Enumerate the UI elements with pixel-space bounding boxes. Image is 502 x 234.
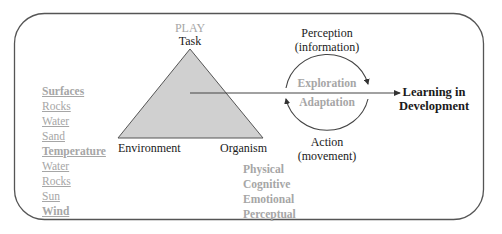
org-item-emotional: Emotional xyxy=(243,192,296,207)
env-item-water-2: Water xyxy=(42,159,106,174)
environment-label: Environment xyxy=(118,142,181,154)
environment-factors-list: Surfaces Rocks Water Sand Temperature Wa… xyxy=(42,84,106,219)
env-item-sand: Sand xyxy=(42,129,106,144)
task-label: Task xyxy=(179,35,202,47)
org-item-perceptual: Perceptual xyxy=(243,207,296,222)
org-item-cognitive: Cognitive xyxy=(243,177,296,192)
exploration-label: Exploration xyxy=(298,78,357,90)
play-learning-diagram: PLAY Task Environment Organism Perceptio… xyxy=(0,0,502,234)
organism-factors-list: Physical Cognitive Emotional Perceptual xyxy=(243,162,296,222)
movement-label: (movement) xyxy=(298,150,357,162)
organism-label: Organism xyxy=(220,142,267,154)
adaptation-label: Adaptation xyxy=(299,97,355,109)
learning-in-label: Learning in xyxy=(403,86,466,99)
env-item-sun: Sun xyxy=(42,189,106,204)
information-label: (information) xyxy=(295,41,360,53)
action-label: Action xyxy=(311,136,344,148)
env-item-rocks: Rocks xyxy=(42,99,106,114)
env-heading-surfaces: Surfaces xyxy=(42,84,106,99)
development-label: Development xyxy=(399,100,469,113)
org-item-physical: Physical xyxy=(243,162,296,177)
env-heading-temperature: Temperature xyxy=(42,144,106,159)
env-item-rocks-2: Rocks xyxy=(42,174,106,189)
perception-label: Perception xyxy=(301,27,352,39)
env-heading-wind: Wind xyxy=(42,204,106,219)
env-item-water: Water xyxy=(42,114,106,129)
play-label: PLAY xyxy=(175,22,205,34)
